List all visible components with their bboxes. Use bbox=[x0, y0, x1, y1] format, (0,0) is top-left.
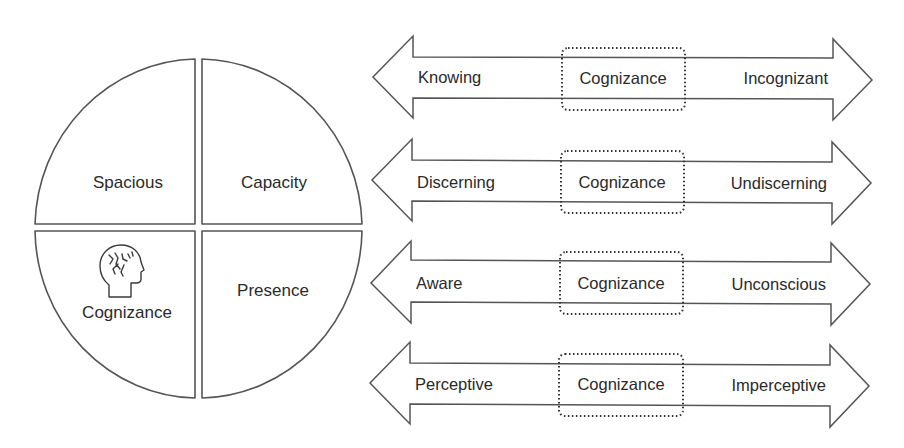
arrow-row-4: Perceptive Cognizance Imperceptive bbox=[370, 342, 869, 427]
quadrant-presence: Presence bbox=[202, 231, 362, 398]
quadrant-label-capacity: Capacity bbox=[241, 173, 308, 192]
quadrant-label-presence: Presence bbox=[237, 281, 309, 300]
arrow-left-label: Knowing bbox=[418, 68, 481, 86]
quadrant-label-spacious: Spacious bbox=[93, 173, 163, 192]
quadrant-spacious: Spacious bbox=[35, 59, 195, 224]
arrow-left-label: Aware bbox=[416, 274, 462, 292]
arrow-right-label: Unconscious bbox=[732, 275, 826, 293]
arrow-row-1: Knowing Cognizance Incognizant bbox=[373, 36, 872, 120]
arrow-left-label: Perceptive bbox=[415, 375, 493, 393]
arrow-center-label: Cognizance bbox=[577, 274, 664, 292]
arrow-row-2: Discerning Cognizance Undiscerning bbox=[372, 139, 871, 224]
arrow-right-label: Undiscerning bbox=[731, 174, 827, 192]
arrow-right-label: Incognizant bbox=[744, 69, 829, 87]
pie-chart: Spacious Capacity Cognizance Presence bbox=[35, 59, 362, 398]
arrow-center-label: Cognizance bbox=[579, 69, 666, 87]
arrow-right-label: Imperceptive bbox=[732, 376, 826, 394]
arrow-row-3: Aware Cognizance Unconscious bbox=[371, 241, 870, 325]
quadrant-label-cognizance: Cognizance bbox=[82, 303, 172, 322]
quadrant-cognizance: Cognizance bbox=[35, 231, 195, 398]
arrow-center-label: Cognizance bbox=[577, 375, 664, 393]
arrow-center-label: Cognizance bbox=[578, 173, 665, 191]
quadrant-capacity: Capacity bbox=[202, 59, 362, 224]
arrow-left-label: Discerning bbox=[417, 173, 495, 191]
cognizance-diagram: Spacious Capacity Cognizance Presence Kn… bbox=[0, 0, 904, 448]
